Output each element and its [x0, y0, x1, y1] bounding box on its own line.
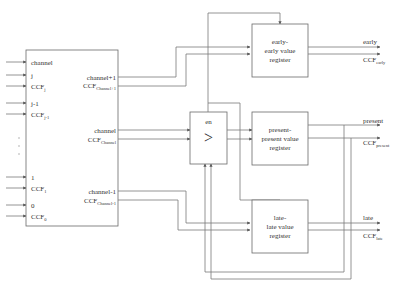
present-register-line2: present value — [261, 135, 298, 143]
wire-ccf-channel-minus-1 — [118, 200, 250, 230]
late-register-line3: register — [270, 232, 292, 240]
wire-channel-plus-1 — [118, 47, 250, 77]
wire-ccf-channel-plus-1 — [118, 54, 250, 86]
early-register-line3: register — [270, 56, 292, 64]
input-label-0: 0 — [31, 202, 35, 210]
ccf-late-output-label: CCFlate — [363, 232, 383, 241]
output-label-channel-plus-1: channel+1 — [87, 74, 117, 82]
input-label-1: 1 — [31, 174, 35, 182]
greater-than-icon: > — [204, 129, 213, 146]
early-register-line2: early value — [265, 47, 296, 55]
ccf-early-output-label: CCFearly — [363, 56, 386, 65]
ccf-present-output-label: CCFpresent — [363, 139, 390, 148]
block-diagram: channel j CCFj j-1 CCFj-1 1 CCF1 0 CCF0 … — [0, 0, 400, 288]
selector-input-arrows — [6, 62, 26, 216]
present-output-label: present — [363, 117, 383, 125]
late-register-line2: late value — [266, 223, 293, 231]
late-output-label: late — [363, 214, 373, 222]
comparator-enable-label: en — [205, 118, 212, 126]
early-register-line1: early- — [272, 38, 289, 46]
output-label-channel-minus-1: channel-1 — [88, 188, 116, 196]
input-label-ccf-1: CCF1 — [31, 185, 46, 194]
present-register-line1: present- — [269, 126, 292, 134]
late-register-line1: late- — [274, 214, 287, 222]
present-register-line3: register — [270, 144, 292, 152]
wire-channel-minus-1 — [118, 191, 250, 223]
early-output-label: early — [363, 38, 377, 46]
input-label-j: j — [30, 72, 33, 80]
input-label-channel: channel — [31, 59, 53, 67]
input-label-j-minus-1: j-1 — [30, 100, 39, 108]
ellipsis-dots — [18, 137, 19, 154]
input-label-ccf-j: CCFj — [31, 83, 46, 92]
output-label-channel: channel — [94, 127, 116, 135]
